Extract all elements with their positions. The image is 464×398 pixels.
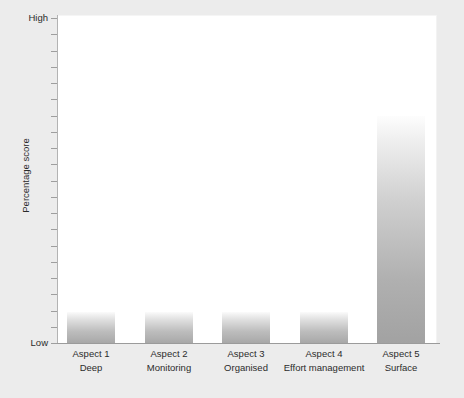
plot-area-top-edge xyxy=(57,15,437,16)
y-axis-tick xyxy=(51,18,57,19)
bar-2 xyxy=(145,312,193,343)
category-label-3: Aspect 3Organised xyxy=(201,347,291,375)
y-axis-tick xyxy=(51,99,57,100)
y-axis-tick xyxy=(51,181,57,182)
bar-1 xyxy=(67,312,115,343)
y-axis-line xyxy=(57,15,58,344)
y-axis-tick xyxy=(51,34,57,35)
x-axis-line xyxy=(51,343,440,344)
y-axis-tick xyxy=(51,262,57,263)
y-axis-tick xyxy=(51,343,57,344)
bar-4 xyxy=(300,312,348,343)
y-axis-tick xyxy=(51,246,57,247)
y-axis-tick xyxy=(51,294,57,295)
y-axis-tick xyxy=(51,311,57,312)
category-name: Aspect 1 xyxy=(73,348,110,359)
category-label-1: Aspect 1Deep xyxy=(46,347,136,375)
plot-area-right-edge xyxy=(436,15,437,344)
y-axis-tick xyxy=(51,164,57,165)
y-axis-tick xyxy=(51,229,57,230)
y-axis-tick xyxy=(51,278,57,279)
y-axis-low-label: Low xyxy=(8,338,48,348)
y-axis-tick xyxy=(51,132,57,133)
category-name: Aspect 2 xyxy=(151,348,188,359)
y-axis-tick xyxy=(51,197,57,198)
y-axis-title: Percentage score xyxy=(20,116,31,236)
y-axis-tick xyxy=(51,67,57,68)
category-sublabel: Organised xyxy=(201,361,291,375)
y-axis-high-label: High xyxy=(8,13,48,23)
y-axis-tick xyxy=(51,327,57,328)
category-sublabel: Surface xyxy=(356,361,446,375)
bar-5 xyxy=(377,116,425,343)
category-sublabel: Deep xyxy=(46,361,136,375)
y-axis-tick xyxy=(51,51,57,52)
category-label-5: Aspect 5Surface xyxy=(356,347,446,375)
category-name: Aspect 3 xyxy=(228,348,265,359)
bar-chart-figure: High Low Percentage score Aspect 1DeepAs… xyxy=(0,0,464,398)
y-axis-tick xyxy=(51,83,57,84)
y-axis-tick xyxy=(51,116,57,117)
y-axis-tick xyxy=(51,148,57,149)
bar-3 xyxy=(222,312,270,343)
category-name: Aspect 5 xyxy=(383,348,420,359)
y-axis-tick xyxy=(51,213,57,214)
category-name: Aspect 4 xyxy=(306,348,343,359)
